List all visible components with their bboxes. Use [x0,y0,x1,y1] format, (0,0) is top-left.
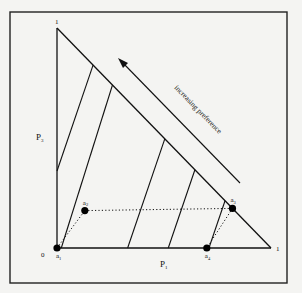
dotted-connectors [57,208,232,248]
expected-utility-triangle-diagram: increasing preference 1 0 1 P3 P1 a1a2a3… [0,0,302,293]
point-label-a1: a1 [56,252,61,261]
hypotenuse [57,28,271,248]
horizontal-axis-label: P1 [160,259,168,270]
point-label-a3: a3 [230,196,236,205]
indifference-curves [57,65,225,248]
top-vertex-label: 1 [55,18,59,26]
point-label-a4: a4 [205,252,211,261]
preference-arrow [122,62,240,183]
vertical-axis-subscript: 3 [41,138,44,143]
point-a2 [81,207,88,214]
lottery-points: a1a2a3a4 [53,196,236,260]
origin-label: 0 [41,251,45,259]
indifference-curve [61,85,112,248]
dotted-connector-a2-a3 [85,208,233,210]
point-a3 [229,205,236,212]
figure-frame [10,12,287,283]
right-vertex-label: 1 [276,245,280,253]
indifference-curve [209,201,225,248]
vertical-axis-label: P3 [36,132,44,143]
horizontal-axis-subscript: 1 [165,265,168,270]
point-label-a2: a2 [83,199,88,208]
arrow-label: increasing preference [173,83,225,136]
point-a4 [203,244,210,251]
indifference-curve [57,65,93,171]
indifference-curve [128,139,165,248]
point-a1 [53,244,60,251]
